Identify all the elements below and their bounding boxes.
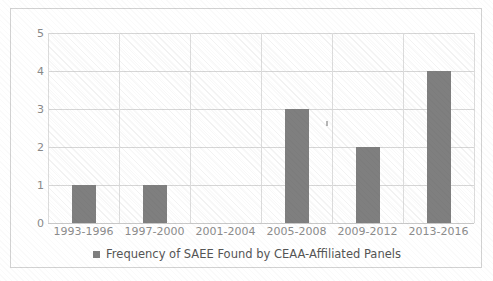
y-axis-tick-label: 2 (18, 142, 44, 153)
chart-frame: 012345 1993-19961997-20002001-20042005-2… (10, 8, 482, 268)
x-axis-tick-label: 2013-2016 (403, 225, 474, 239)
bar-1993-1996 (72, 185, 96, 223)
x-axis-tick-label: 2009-2012 (332, 225, 403, 239)
x-axis-tick-label: 1997-2000 (119, 225, 190, 239)
gridline-x-0 (48, 33, 49, 223)
gridline-x-6 (474, 33, 475, 223)
bar-2005-2008 (285, 109, 309, 223)
gridline-x-3 (261, 33, 262, 223)
legend-label: Frequency of SAEE Found by CEAA-Affiliat… (106, 249, 401, 261)
x-axis-tick-label: 2005-2008 (261, 225, 332, 239)
plot-area (48, 33, 474, 223)
bar-2013-2016 (427, 71, 451, 223)
gridline-y-0 (48, 223, 474, 224)
legend-swatch-icon (93, 251, 100, 258)
gridline-x-2 (190, 33, 191, 223)
scanned-page: 012345 1993-19961997-20002001-20042005-2… (0, 0, 493, 281)
y-axis-tick-label: 1 (18, 180, 44, 191)
x-axis: 1993-19961997-20002001-20042005-20082009… (48, 225, 474, 245)
x-axis-tick-label: 1993-1996 (48, 225, 119, 239)
y-axis-tick-label: 5 (18, 28, 44, 39)
bar-1997-2000 (143, 185, 167, 223)
y-axis-tick-label: 4 (18, 66, 44, 77)
gridline-x-1 (119, 33, 120, 223)
scan-artifact-speck (326, 121, 328, 126)
y-axis-tick-label: 3 (18, 104, 44, 115)
y-axis: 012345 (11, 33, 44, 223)
y-axis-tick-label: 0 (18, 218, 44, 229)
gridline-x-4 (332, 33, 333, 223)
chart-legend: Frequency of SAEE Found by CEAA-Affiliat… (11, 249, 483, 261)
bar-2009-2012 (356, 147, 380, 223)
x-axis-tick-label: 2001-2004 (190, 225, 261, 239)
gridline-x-5 (403, 33, 404, 223)
